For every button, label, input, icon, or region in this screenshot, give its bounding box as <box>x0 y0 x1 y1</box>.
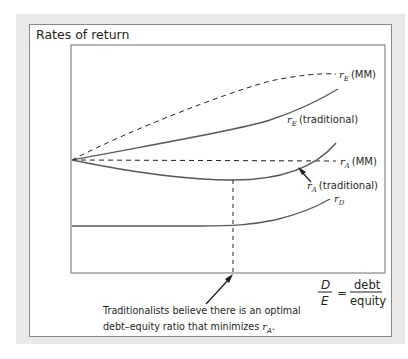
series-ra-mm <box>72 160 336 161</box>
label-ra-traditional: rA(traditional) <box>307 180 378 194</box>
label-ra-mm: rA(MM) <box>340 156 377 170</box>
caption-line-2-text: debt–equity ratio that minimizes <box>103 321 262 332</box>
x-label-equals: = <box>337 286 347 300</box>
series-re-mm <box>72 74 336 160</box>
caption-period: . <box>272 321 275 332</box>
caption-line-1: Traditionalists believe there is an opti… <box>103 303 301 319</box>
label-re-mm: rE(MM) <box>339 69 376 83</box>
annotation-caption: Traditionalists believe there is an opti… <box>103 303 301 339</box>
x-label-e: E <box>321 294 329 308</box>
x-label-d: D <box>321 278 330 292</box>
x-label-equity: equity <box>350 294 386 308</box>
x-label-debt: debt <box>354 278 381 292</box>
series-ra-traditional <box>72 143 336 180</box>
series-rd <box>72 199 330 226</box>
caption-arrow <box>206 278 230 304</box>
plot-frame <box>71 45 385 273</box>
label-re-traditional: rE(traditional) <box>287 114 358 128</box>
caption-line-2: debt–equity ratio that minimizes rA. <box>103 319 301 339</box>
label-rd: rD <box>334 193 345 207</box>
